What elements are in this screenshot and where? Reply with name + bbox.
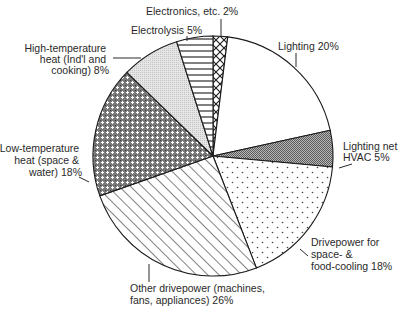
label-high-temp-heat: High-temperature heat (Ind'l and cooking… (24, 42, 109, 76)
label-lighting: Lighting 20% (278, 40, 339, 52)
leader-drivepower-cooling (300, 249, 308, 256)
pie-chart: Electronics, etc. 2% Electrolysis 5% Hig… (0, 0, 402, 312)
leader-lighting-net-hvac (339, 164, 352, 168)
label-electrolysis: Electrolysis 5% (131, 24, 202, 36)
label-low-temp-heat: Low-temperature heat (space & water) 18% (0, 142, 82, 178)
label-other-drivepower: Other drivepower (machines, fans, applia… (130, 282, 268, 306)
label-electronics: Electronics, etc. 2% (146, 5, 238, 17)
label-lighting-net-hvac: Lighting net HVAC 5% (343, 140, 400, 163)
pie-slices (93, 36, 333, 276)
label-drivepower-cooling: Drivepower for space- & food-cooling 18% (311, 236, 392, 272)
